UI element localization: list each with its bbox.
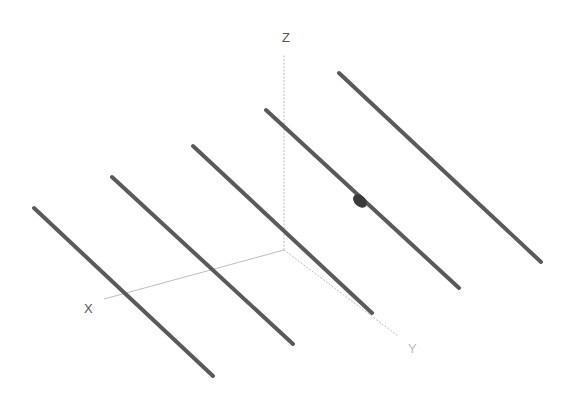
y-axis xyxy=(284,250,398,336)
y-axis-label: Y xyxy=(408,341,417,356)
parallel-line-1 xyxy=(34,208,213,376)
parallel-line-5 xyxy=(339,73,541,262)
x-axis-label: X xyxy=(84,301,93,316)
diagram-canvas: XYZ xyxy=(0,0,564,396)
x-axis xyxy=(104,250,284,299)
parallel-line-2 xyxy=(112,177,293,344)
parallel-line-3 xyxy=(193,146,372,313)
diagram-svg: XYZ xyxy=(0,0,564,396)
parallel-lines-group xyxy=(34,73,541,376)
z-axis-label: Z xyxy=(282,30,290,45)
